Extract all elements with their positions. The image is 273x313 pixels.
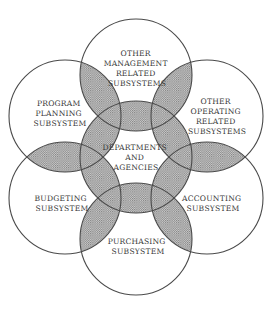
label-upper-right: OTHER OPERATING RELATED SUBSYSTEMS	[188, 97, 246, 136]
label-lower-left: BUDGETING SUBSYSTEM	[35, 194, 90, 213]
subsystems-diagram: OTHER MANAGEMENT RELATED SUBSYSTEMS OTHE…	[0, 0, 273, 313]
label-upper-left: PROGRAM PLANNING SUBSYSTEM	[34, 99, 87, 128]
label-top: OTHER MANAGEMENT RELATED SUBSYSTEMS	[104, 49, 171, 88]
label-bottom: PURCHASING SUBSYSTEM	[108, 237, 169, 256]
label-lower-right: ACCOUNTING SUBSYSTEM	[181, 194, 244, 213]
